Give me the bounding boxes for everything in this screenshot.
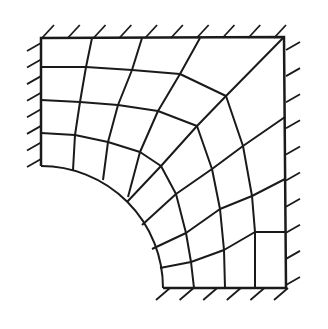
hatch-mark — [286, 146, 300, 154]
hatch-mark — [27, 109, 41, 117]
hatch-mark — [180, 288, 194, 300]
hatch-mark — [27, 43, 41, 51]
hatch-mark — [274, 288, 288, 300]
hatch-mark — [27, 60, 41, 68]
hatch-mark — [42, 25, 54, 38]
hatch-mark — [119, 25, 131, 38]
hatch-mark — [286, 68, 300, 76]
radial-mesh-line — [127, 37, 284, 202]
hatch-mark — [68, 25, 80, 38]
hatch-mark — [286, 277, 300, 285]
radial-mesh-line — [103, 38, 142, 180]
fem-mesh-diagram — [0, 0, 328, 329]
hatch-mark — [286, 94, 300, 102]
hatch-mark — [250, 288, 264, 300]
hatch-mark — [27, 159, 41, 167]
hatch-mark — [286, 173, 300, 181]
radial-mesh-line — [152, 179, 285, 249]
hatch-mark — [286, 225, 300, 233]
hatch-mark — [27, 126, 41, 134]
hatch-mark — [94, 25, 106, 38]
hatch-mark — [27, 93, 41, 101]
hatch-mark — [286, 251, 300, 259]
hatch-mark — [197, 25, 209, 38]
hatch-mark — [286, 42, 300, 50]
mesh-grid — [41, 37, 286, 288]
hatch-mark — [171, 25, 183, 38]
hatch-mark — [27, 142, 41, 150]
radial-mesh-line — [73, 38, 92, 170]
hatch-mark — [286, 199, 300, 207]
hatch-mark — [27, 76, 41, 84]
hatch-mark — [286, 120, 300, 128]
hatch-mark — [156, 288, 170, 300]
hatch-mark — [145, 25, 157, 38]
hatch-mark — [203, 288, 217, 300]
hatch-mark — [227, 288, 241, 300]
